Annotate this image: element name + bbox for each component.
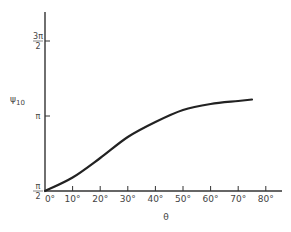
y-tick-label: π [36,112,41,121]
x-tick-label: 80° [258,194,274,204]
x-tick-label: 60° [203,194,219,204]
chart: 0°10°20°30°40°50°60°70°80° π2π3π2 ψ10 θ [0,0,291,232]
x-tick-label: 10° [65,194,81,204]
x-tick-label: 20° [92,194,108,204]
data-curve [45,100,252,192]
svg-text:2: 2 [35,192,40,201]
y-axis-label: ψ10 [10,94,25,107]
x-tick-label: 0° [45,194,55,204]
y-tick-label: π [36,182,41,191]
x-axis-label: θ [163,212,169,222]
x-tick-label: 30° [120,194,136,204]
x-ticks: 0°10°20°30°40°50°60°70°80° [45,186,274,204]
x-tick-label: 40° [147,194,163,204]
y-ticks: π2π3π2 [33,32,50,201]
x-tick-label: 50° [175,194,191,204]
x-tick-label: 70° [230,194,246,204]
y-tick-label: 3π [33,32,43,41]
svg-text:2: 2 [35,42,40,51]
